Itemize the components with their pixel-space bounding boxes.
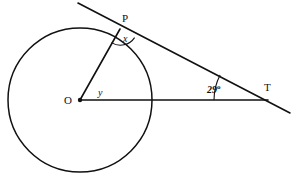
geometry-canvas xyxy=(0,0,302,185)
label-point-t: T xyxy=(264,82,271,93)
label-angle-y: y xyxy=(98,88,102,98)
label-angle-29-degrees: 29o xyxy=(207,85,221,95)
label-point-o: O xyxy=(64,95,72,106)
angle-value: 29 xyxy=(207,84,217,95)
label-point-p: P xyxy=(122,13,128,24)
geometry-figure: P x y O T 29o xyxy=(0,0,302,185)
label-angle-x: x xyxy=(123,34,127,44)
degree-symbol: o xyxy=(217,83,221,91)
center-point-dot xyxy=(78,98,82,102)
tangent-line xyxy=(78,3,290,113)
